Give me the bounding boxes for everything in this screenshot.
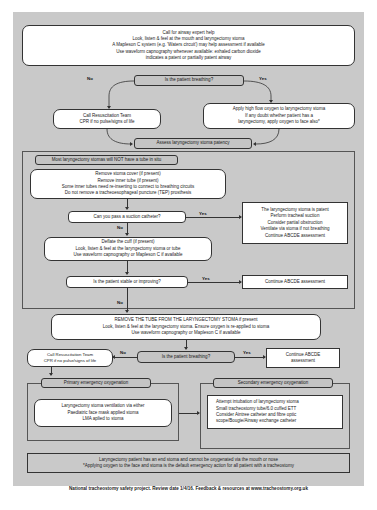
primary-oxygenation-header: Primary emergency oxygenation [41,378,151,388]
continue-abcde-box-1: Continue ABCDE assessment [242,275,348,289]
arrow-to-decision3 [125,272,129,275]
stoma-is-patent-box: The laryngectomy stoma is patent Perform… [242,202,348,244]
arrow-assess-right [253,142,256,146]
arrow-to-remove-tube [125,310,129,313]
decision-suction-catheter[interactable]: Can you pass a suction catheter? [68,211,186,223]
assess-stoma-patency-header: Assess laryngectomy stoma patency [134,138,252,149]
flowchart-poster: Emergency laryngectomy management Call f… [13,12,364,486]
most-stomas-no-tube-note: Most laryngectomy stomas will NOT have a… [35,155,178,165]
remove-tube-box: REMOVE THE TUBE FROM THE LARYNGECTOMY ST… [51,314,321,340]
decision-stable-or-improving[interactable]: Is the patient stable or improving? [66,276,188,288]
deflate-cuff-box: Deflate the cuff (if present) Look, list… [44,237,212,261]
line-decision2-yes [186,217,241,218]
decision-is-patient-breathing-2[interactable]: Is the patient breathing? [137,351,235,363]
branch-label-yes-2: Yes [199,211,207,216]
arrow-assess-left [130,142,133,146]
remove-stoma-cover-box: Remove stoma cover (if present) Remove i… [30,169,226,199]
line-decision3-no [127,288,128,312]
line-decision3-yes [188,282,241,283]
arrow-to-decision2 [125,207,129,210]
credit-line: National tracheostomy safety project. Re… [13,476,364,494]
branch-label-yes-4: Yes [243,350,251,355]
secondary-oxygenation-box: Attempt intubation of laryngectomy stoma… [207,395,343,429]
branch-label-yes-3: Yes [202,276,210,281]
call-resuscitation-team-box-2: Call Resuscitation Team CPR if no pulse/… [27,349,113,367]
continue-abcde-box-2: Continue ABCDE assessment [266,348,340,368]
branch-label-no-2: No [117,225,123,230]
arrow-to-deflate [125,233,129,236]
primary-oxygenation-box: Laryngectomy stoma ventilation via eithe… [34,399,172,427]
line-decision4-no [113,357,137,358]
branch-label-no-3: No [117,300,123,305]
secondary-oxygenation-header: Secondary emergency oxygenation [213,378,333,388]
arrow-to-primary [49,373,53,376]
line-primary-to-secondary [179,413,199,414]
line-decision4-yes [235,357,265,358]
arrow-to-decision4 [184,347,188,350]
branch-label-no-4: No [120,350,126,355]
footnote-box: Laryngectomy patient has an end stoma an… [27,453,350,473]
